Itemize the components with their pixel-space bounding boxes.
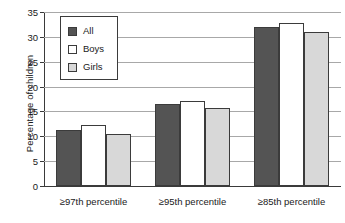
legend-swatch-icon [68, 45, 77, 54]
y-tick-mark [40, 186, 44, 187]
legend-item-all: All [68, 22, 117, 40]
y-tick-label: 30 [27, 31, 38, 42]
y-tick-mark [40, 62, 44, 63]
y-tick-label: 20 [27, 81, 38, 92]
y-tick-mark [40, 161, 44, 162]
y-tick-mark [40, 87, 44, 88]
y-tick-label: 5 [33, 156, 38, 167]
y-tick-label: 0 [33, 181, 38, 192]
gridline [44, 12, 341, 13]
bar-girls-3 [304, 32, 329, 186]
legend-label: All [83, 26, 94, 36]
x-axis-label-2: ≥95th percentile [159, 196, 227, 207]
bar-girls-2 [205, 108, 230, 186]
y-tick-label: 35 [27, 7, 38, 18]
legend: AllBoysGirls [60, 16, 118, 80]
y-tick-label: 10 [27, 131, 38, 142]
legend-swatch-icon [68, 63, 77, 72]
legend-item-girls: Girls [68, 58, 117, 76]
y-tick-mark [40, 136, 44, 137]
bar-all-2 [155, 104, 180, 186]
y-tick-label: 15 [27, 106, 38, 117]
legend-label: Boys [83, 44, 104, 54]
y-tick-mark [40, 111, 44, 112]
x-axis-label-1: ≥97th percentile [60, 196, 128, 207]
legend-swatch-icon [68, 27, 77, 36]
bar-all-3 [254, 27, 279, 186]
bar-boys-2 [180, 101, 205, 186]
bar-boys-1 [81, 125, 106, 186]
bar-girls-1 [106, 134, 131, 186]
bar-boys-3 [279, 23, 304, 186]
y-tick-mark [40, 37, 44, 38]
legend-item-boys: Boys [68, 40, 117, 58]
bar-chart: Percentage of children 05101520253035 ≥9… [0, 0, 345, 223]
axis-baseline [44, 186, 341, 187]
y-tick-label: 25 [27, 56, 38, 67]
x-axis-label-3: ≥85th percentile [258, 196, 326, 207]
bar-all-1 [56, 130, 81, 186]
y-tick-mark [40, 12, 44, 13]
legend-label: Girls [83, 62, 103, 72]
